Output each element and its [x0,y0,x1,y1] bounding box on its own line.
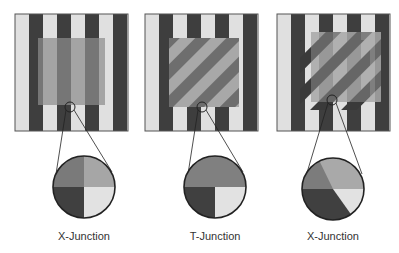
panel-1-label: X-Junction [24,230,144,242]
panel-2 [145,14,258,218]
panel-3 [277,14,390,220]
junction-figure: X-Junction T-Junction X-Junction [0,0,399,253]
panel-3-label: X-Junction [273,230,393,242]
panel-2-label: T-Junction [155,230,275,242]
occluding-square [169,38,239,107]
transparent-striped-square [311,32,381,102]
panel-1 [15,14,128,218]
transparent-square [38,38,105,105]
